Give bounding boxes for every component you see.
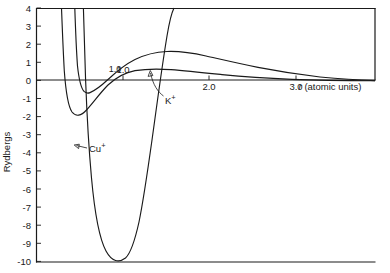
annotation-k-plus: K+ — [148, 71, 176, 107]
annotation-label-1-0: 1.0 — [109, 64, 122, 74]
y-tick-label: -5 — [23, 165, 31, 176]
figure-container: 4 3 2 1 0 -1 -2 -3 -4 -5 -6 -7 -8 -9 -10… — [0, 0, 390, 273]
y-tick-label: 1 — [26, 57, 31, 68]
y-tick-label: -6 — [23, 184, 31, 195]
y-tick-label: 2 — [26, 39, 31, 50]
y-tick-label: -4 — [23, 147, 31, 158]
y-axis-tick-labels: 4 3 2 1 0 -1 -2 -3 -4 -5 -6 -7 -8 -9 -10 — [17, 3, 31, 267]
y-tick-label: -1 — [23, 93, 31, 104]
cu-plus-label-text: Cu — [89, 143, 101, 154]
cu-plus-leader-line — [77, 146, 88, 149]
svg-text:K+: K+ — [165, 93, 176, 106]
k-plus-label-superscript: + — [171, 93, 176, 102]
x-tick-label: 2.0 — [202, 81, 215, 92]
y-tick-label: -8 — [23, 220, 31, 231]
plot-frame — [36, 8, 376, 263]
y-tick-label: -9 — [23, 238, 31, 249]
y-axis-title: Rydbergs — [1, 131, 12, 172]
y-tick-label: 4 — [26, 3, 31, 14]
annotation-cu-plus: Cu+ — [74, 141, 106, 154]
potential-energy-curve-plot: 4 3 2 1 0 -1 -2 -3 -4 -5 -6 -7 -8 -9 -10… — [0, 0, 390, 273]
cu-plus-label-superscript: + — [101, 141, 106, 150]
y-tick-label: 3 — [26, 21, 31, 32]
curve-cu-plus — [83, 8, 174, 261]
cu-plus-arrowhead — [74, 144, 79, 148]
y-axis-ticks — [37, 8, 42, 261]
curve-k-plus — [62, 8, 376, 115]
x-axis-title: r (atomic units) — [299, 81, 362, 92]
y-tick-label: 0 — [26, 75, 31, 86]
k-plus-leader-line — [151, 73, 164, 96]
y-tick-label: -10 — [17, 256, 31, 267]
y-tick-label: -3 — [23, 129, 31, 140]
svg-text:Cu+: Cu+ — [89, 141, 106, 154]
x-axis-title-text: (atomic units) — [302, 81, 362, 92]
y-tick-label: -2 — [23, 111, 31, 122]
svg-text:r (atomic units): r (atomic units) — [299, 81, 362, 92]
y-tick-label: -7 — [23, 202, 31, 213]
